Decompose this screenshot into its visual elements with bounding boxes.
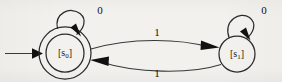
start-arrow-head xyxy=(32,48,43,58)
state-diagram-canvas: [s0] [s1] 0 0 1 1 xyxy=(0,0,282,82)
transition-s1-self-loop-label: 0 xyxy=(261,4,267,16)
state-s0-label: [s0] xyxy=(58,47,72,60)
state-s0-label-close: ] xyxy=(69,47,72,58)
transition-s1-self-loop-path xyxy=(228,15,254,38)
state-s1-label: [s1] xyxy=(230,48,244,61)
transition-s0-to-s1-arrowhead xyxy=(201,41,220,51)
transition-s0-to-s1[interactable] xyxy=(91,40,220,50)
transition-s0-self-loop-arrowhead xyxy=(71,24,82,37)
transition-s0-to-s1-path xyxy=(91,40,208,49)
transition-s0-to-s1-label: 1 xyxy=(154,26,160,38)
transition-s1-to-s0-label: 1 xyxy=(154,67,160,79)
start-arrow xyxy=(5,48,43,58)
state-s1-label-close: ] xyxy=(241,48,244,59)
state-s0-label-open: [s xyxy=(58,47,65,58)
transition-s0-self-loop-label: 0 xyxy=(97,4,103,16)
state-s1-label-open: [s xyxy=(230,48,237,59)
state-s0[interactable]: [s0] xyxy=(39,27,91,79)
transition-s1-to-s0-arrowhead xyxy=(90,57,109,67)
state-s1[interactable]: [s1] xyxy=(219,36,255,72)
transition-s0-self-loop-path xyxy=(57,10,84,34)
transition-s1-to-s0-path xyxy=(101,62,221,71)
transition-s0-self-loop[interactable] xyxy=(57,10,84,36)
